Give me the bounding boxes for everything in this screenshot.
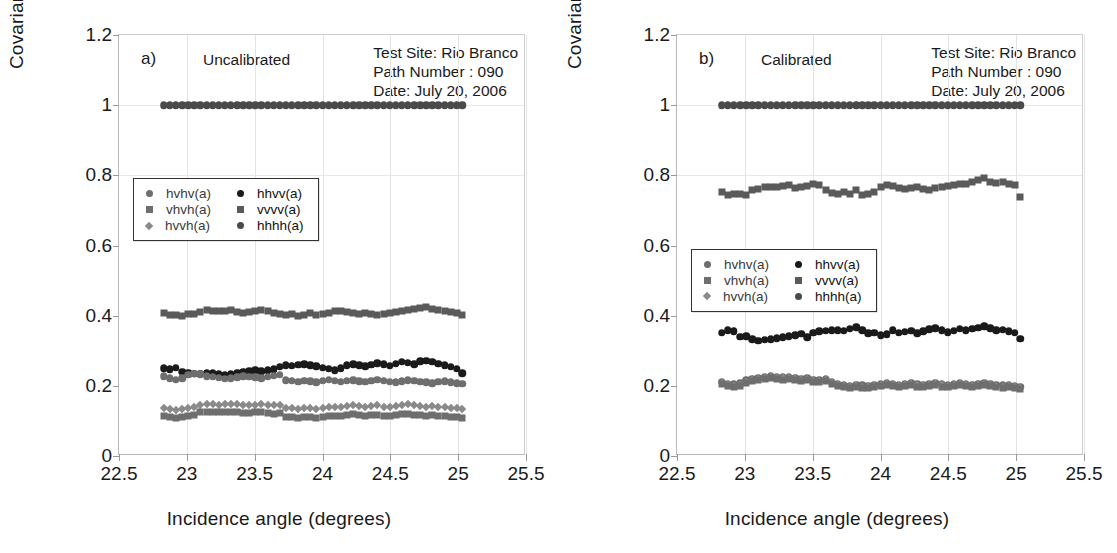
- legend-label: vvvv(a): [257, 202, 301, 217]
- y-tick-mark: [671, 386, 677, 387]
- gridline-vertical: [390, 35, 391, 454]
- gridline-vertical: [323, 35, 324, 454]
- legend-label: hhhh(a): [815, 289, 862, 304]
- y-tick-label: 0.8: [644, 164, 670, 186]
- test-site-a: Test Site: Rio Branco: [373, 43, 518, 62]
- x-tick-mark: [745, 454, 746, 461]
- y-tick-mark: [113, 35, 119, 36]
- x-tick-label: 23: [734, 463, 755, 485]
- x-tick-mark: [390, 454, 391, 461]
- gridline-vertical: [1084, 35, 1085, 454]
- gridline-vertical: [813, 35, 814, 454]
- metadata-block-a: Test Site: Rio Branco Path Number : 090 …: [373, 43, 518, 100]
- legend-label: hhvv(a): [257, 186, 302, 201]
- gridline-vertical: [187, 35, 188, 454]
- circle-marker-icon: [146, 190, 153, 197]
- circle-marker-icon: [795, 293, 802, 300]
- plot-area-b: b) Calibrated Test Site: Rio Branco Path…: [676, 34, 1083, 455]
- data-point-vvvva: [1017, 194, 1024, 201]
- y-axis-label-a: Covariance: [6, 0, 28, 130]
- x-tick-mark: [458, 454, 459, 461]
- x-tick-mark: [255, 454, 256, 461]
- y-tick-mark: [671, 246, 677, 247]
- y-tick-mark: [671, 316, 677, 317]
- y-tick-label: 0: [101, 445, 112, 467]
- y-tick-mark: [671, 456, 677, 457]
- legend-label: vhvh(a): [724, 273, 769, 288]
- data-point-hvhva: [458, 380, 466, 388]
- gridline-vertical: [255, 35, 256, 454]
- circle-marker-icon: [237, 190, 244, 197]
- y-tick-label: 0.2: [86, 375, 112, 397]
- x-tick-mark: [881, 454, 882, 461]
- panel-b: Covariance Incidence angle (degrees) b) …: [558, 0, 1116, 553]
- y-tick-label: 0.4: [86, 305, 112, 327]
- y-tick-label: 0.6: [644, 235, 670, 257]
- x-tick-label: 25: [448, 463, 469, 485]
- y-tick-mark: [671, 105, 677, 106]
- gridline-vertical: [458, 35, 459, 454]
- legend-label: hvvh(a): [723, 289, 768, 304]
- x-tick-label: 23: [176, 463, 197, 485]
- figure-root: Covariance Incidence angle (degrees) a) …: [0, 0, 1117, 553]
- data-point-vhvha: [459, 415, 466, 422]
- legend-b: hvhv(a)hhvv(a)vhvh(a)vvvv(a)hvvh(a)hhhh(…: [691, 249, 877, 312]
- data-point-hhhha: [1016, 101, 1024, 109]
- square-marker-icon: [795, 277, 802, 284]
- y-tick-mark: [113, 386, 119, 387]
- y-tick-label: 0.2: [644, 375, 670, 397]
- gridline-vertical: [745, 35, 746, 454]
- x-tick-mark: [813, 454, 814, 461]
- circle-marker-icon: [237, 222, 244, 229]
- x-tick-label: 24.5: [930, 463, 967, 485]
- square-marker-icon: [704, 277, 711, 284]
- path-number-b: Path Number : 090: [931, 62, 1076, 81]
- y-tick-label: 1.2: [86, 24, 112, 46]
- x-tick-label: 23.5: [794, 463, 831, 485]
- data-point-vvvva: [1011, 182, 1018, 189]
- legend-label: vvvv(a): [815, 273, 859, 288]
- x-axis-label-a: Incidence angle (degrees): [0, 508, 558, 530]
- legend-item-vvvva: vvvv(a): [795, 273, 862, 288]
- calibration-state-a: Uncalibrated: [203, 51, 290, 69]
- circle-marker-icon: [704, 261, 711, 268]
- legend-label: hvhv(a): [166, 186, 211, 201]
- panel-a: Covariance Incidence angle (degrees) a) …: [0, 0, 558, 553]
- x-tick-label: 25.5: [508, 463, 545, 485]
- x-tick-label: 23.5: [236, 463, 273, 485]
- x-tick-mark: [677, 454, 678, 461]
- panel-tag-b: b): [699, 49, 714, 69]
- legend-label: hhvv(a): [815, 257, 860, 272]
- gridline-vertical: [881, 35, 882, 454]
- x-tick-mark: [1016, 454, 1017, 461]
- test-site-b: Test Site: Rio Branco: [931, 43, 1076, 62]
- y-tick-label: 1: [659, 94, 670, 116]
- x-tick-mark: [948, 454, 949, 461]
- x-tick-mark: [1084, 454, 1085, 461]
- legend-item-vhvha: vhvh(a): [146, 202, 211, 217]
- x-tick-mark: [187, 454, 188, 461]
- path-number-a: Path Number : 090: [373, 62, 518, 81]
- data-point-hvvha: [458, 405, 466, 413]
- square-marker-icon: [237, 206, 244, 213]
- legend-item-hvhva: hvhv(a): [146, 186, 211, 201]
- y-tick-mark: [113, 456, 119, 457]
- gridline-vertical: [948, 35, 949, 454]
- legend-item-hhvva: hhvv(a): [237, 186, 304, 201]
- y-tick-mark: [113, 246, 119, 247]
- panel-tag-a: a): [141, 49, 156, 69]
- y-tick-label: 0: [659, 445, 670, 467]
- x-tick-mark: [323, 454, 324, 461]
- y-tick-mark: [113, 105, 119, 106]
- acquisition-date-b: Date: July 20, 2006: [931, 81, 1076, 100]
- plot-area-a: a) Uncalibrated Test Site: Rio Branco Pa…: [118, 34, 525, 455]
- y-tick-mark: [113, 175, 119, 176]
- legend-item-hhhha: hhhh(a): [795, 289, 862, 304]
- x-tick-label: 25.5: [1066, 463, 1103, 485]
- legend-label: vhvh(a): [166, 202, 211, 217]
- data-point-vhvha: [1017, 385, 1024, 392]
- x-tick-mark: [119, 454, 120, 461]
- data-point-vvvva: [459, 312, 466, 319]
- square-marker-icon: [146, 206, 153, 213]
- x-tick-label: 24: [312, 463, 333, 485]
